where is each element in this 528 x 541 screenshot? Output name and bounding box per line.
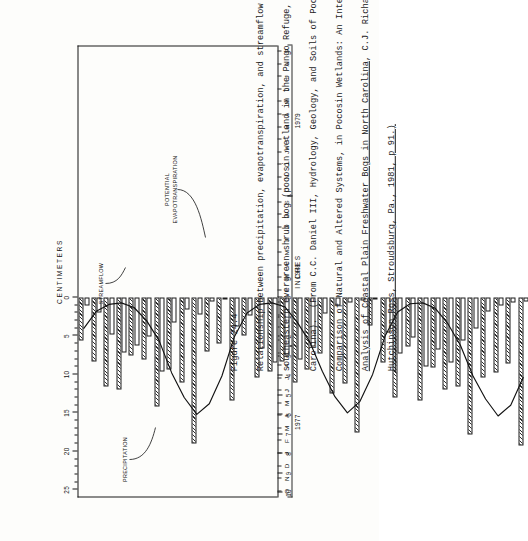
streamflow-annotation: STREAMFLOW xyxy=(98,263,105,305)
caption-line-5: Comparison of Natural and Altered System… xyxy=(335,0,345,371)
pet-annotation-line1: POTENTIAL xyxy=(164,173,171,206)
caption-line-4: Carolina). (From C.C. Daniel III, Hydrol… xyxy=(308,0,318,371)
streamflow-bar-29 xyxy=(448,298,453,363)
figure-caption: Figure 24.4 Relationship between precipi… xyxy=(216,91,412,371)
streamflow-bar-34 xyxy=(511,298,516,303)
precipitation-bar-32 xyxy=(481,298,486,378)
precipitation-leader-line xyxy=(130,428,156,460)
figure-caption-rotated-wrapper: Figure 24.4 Relationship between precipi… xyxy=(216,91,412,371)
caption-line-6-rest: , C.J. Richardson, ed., xyxy=(361,0,371,61)
precipitation-annotation: PRECIPITATION xyxy=(122,437,129,482)
streamflow-bar-33 xyxy=(498,298,503,306)
caption-line-7: Hutchinson Ross, Stroudsburg, Pa., 1981,… xyxy=(387,124,397,371)
precipitation-bar-35 xyxy=(518,298,523,446)
caption-line-1: Figure 24.4 xyxy=(230,313,240,371)
streamflow-bar-31 xyxy=(473,298,478,329)
precipitation-bar-34 xyxy=(506,298,511,364)
precipitation-bar-29 xyxy=(443,298,448,390)
streamflow-bar-30 xyxy=(461,298,466,341)
caption-line-3: southeastern evergreen shrub bog (pocosi… xyxy=(282,0,292,371)
pet-leader-line xyxy=(178,190,206,238)
streamflow-bar-27 xyxy=(423,298,428,367)
precipitation-bar-27 xyxy=(418,298,423,401)
caption-line-2: Relationship between precipitation, evap… xyxy=(256,0,266,371)
streamflow-leader-line xyxy=(106,268,126,284)
precipitation-bar-33 xyxy=(493,298,498,373)
streamflow-bar-32 xyxy=(486,298,491,312)
streamflow-bar-35 xyxy=(523,298,528,302)
pet-annotation-line2: EVAPOTRANSPIRATION xyxy=(172,156,179,224)
streamflow-bar-28 xyxy=(436,298,441,350)
caption-line-6-title: Analysis of Coastal Plain Freshwater Bog… xyxy=(361,61,371,371)
precipitation-bar-30 xyxy=(455,298,460,387)
